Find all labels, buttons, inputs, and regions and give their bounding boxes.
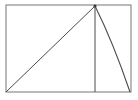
bounding-rectangle [6, 5, 131, 92]
geometric-figure-canvas: Geometric figure: rectangle with inscrib… [0, 0, 138, 100]
apex-vertex-marker [93, 4, 96, 7]
